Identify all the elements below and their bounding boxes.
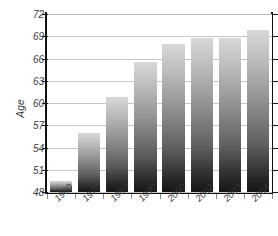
y-axis-tick-label: 69 [16,31,44,42]
y-axis-tick-label: 66 [16,53,44,64]
plot-area [47,14,272,192]
right-axis-tick-mark [272,81,278,82]
y-axis-tick-label: 51 [16,164,44,175]
x-axis-tick-labels: 19601970198019902000200220032004 [47,196,278,236]
y-axis-tick-label: 54 [16,142,44,153]
right-axis-tick-mark [272,103,278,104]
right-axis-tick-mark [272,148,278,149]
y-axis-tick-mark [42,192,48,193]
bar-series [47,14,272,192]
bar-chart: Age 485154576063666972 19601970198019902… [0,0,278,236]
right-axis-tick-mark [272,59,278,60]
y-axis-tick-label: 48 [16,187,44,198]
bar [106,97,128,192]
bar [247,30,269,192]
bar [162,44,184,192]
right-axis-tick-mark [272,36,278,37]
y-axis-tick-labels: 485154576063666972 [16,0,44,236]
right-axis-tick-mark [272,14,278,15]
y-axis-tick-label: 72 [16,9,44,20]
bar [134,62,156,192]
right-axis-tick-mark [272,125,278,126]
bar [219,38,241,192]
y-axis-tick-label: 57 [16,120,44,131]
y-axis-tick-label: 60 [16,98,44,109]
right-axis-tick-mark [272,192,278,193]
bar [191,38,213,192]
right-axis-tick-mark [272,170,278,171]
y-axis-tick-label: 63 [16,75,44,86]
